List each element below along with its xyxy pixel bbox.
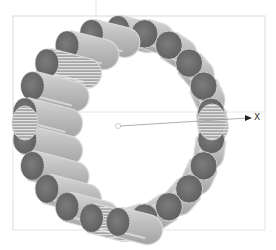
striped-end-cap xyxy=(198,104,226,140)
x-axis-label: X xyxy=(254,112,260,122)
x-axis-arrowhead-icon xyxy=(245,115,252,121)
cylinder-ring-model[interactable] xyxy=(12,15,228,244)
x-axis-indicator xyxy=(116,115,253,129)
x-axis-line xyxy=(120,118,248,126)
origin-marker xyxy=(116,124,121,129)
3d-viewport[interactable] xyxy=(0,0,276,250)
striped-end-cap xyxy=(12,106,38,140)
